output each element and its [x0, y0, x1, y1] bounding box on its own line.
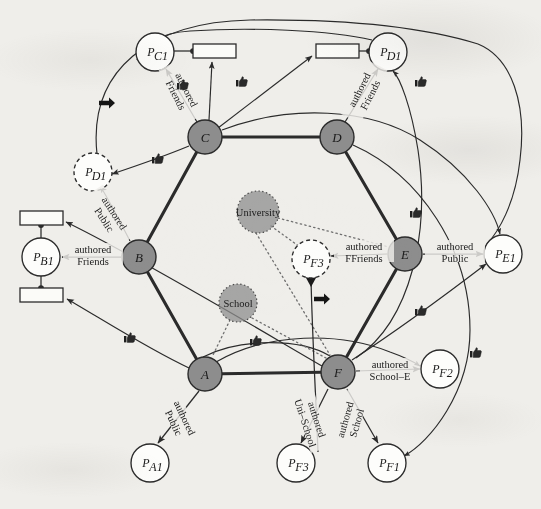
- edge-label-d-pd1: authoredFriends: [341, 60, 389, 124]
- curve-c-to-pd1b: [112, 146, 189, 174]
- attribute-node-label: University: [236, 207, 281, 218]
- edge-label-line2: School–E: [370, 371, 411, 382]
- edge-B-C: [139, 137, 205, 257]
- attr-University-PF3: [271, 226, 300, 247]
- user-node-label: E: [400, 247, 409, 262]
- resource-node-subscript: F1: [385, 460, 399, 474]
- edge-label-line2: FFriends: [345, 253, 382, 264]
- glyph-layer: [99, 77, 481, 358]
- policy-box: [316, 44, 359, 58]
- thumbs-up-icon: [415, 77, 426, 87]
- edge-A-B: [139, 257, 205, 374]
- edge-label-a-pa1: authoredPublic: [156, 388, 203, 452]
- resource-node-subscript: F3: [294, 460, 308, 474]
- resource-node-subscript: D1: [91, 169, 107, 183]
- attribute-node-label: School: [223, 298, 252, 309]
- resource-node-subscript: C1: [154, 49, 168, 63]
- user-node-label: C: [201, 130, 210, 145]
- policy-box: [20, 211, 63, 225]
- edge-label-line1: authored: [346, 241, 383, 252]
- edge-label-b-pd1b: authoredPublic: [83, 185, 135, 248]
- edge-F-A: [205, 372, 338, 374]
- edge-label-line2: Friends: [77, 256, 109, 267]
- diagram-svg: UniversitySchool PA1PB1PC1PD1PD1PE1PF1PF…: [0, 0, 541, 509]
- curve-a-f-low: [203, 343, 330, 357]
- resource-node-subscript: B1: [40, 254, 53, 268]
- figure-canvas: UniversitySchool PA1PB1PC1PD1PD1PE1PF1PF…: [0, 0, 541, 509]
- user-node-label: A: [200, 367, 209, 382]
- thumbs-up-icon: [250, 336, 261, 346]
- thumbs-up-icon: [470, 348, 481, 358]
- line-c-to-boxpc1: [209, 62, 212, 120]
- policy-box: [193, 44, 236, 58]
- edge-label-c-pc1: authoredFriends: [157, 60, 205, 124]
- edge-label-line2: Public: [442, 253, 469, 264]
- edge-label-f-pf2: authoredSchool–E: [360, 358, 420, 382]
- edge-label-line1: authored: [75, 244, 112, 255]
- resource-node-subscript: D1: [386, 49, 402, 63]
- outer-connector-curves: [66, 20, 522, 456]
- thumbs-up-icon: [415, 306, 426, 316]
- user-node-label: B: [135, 250, 143, 265]
- resource-node-subscript: E1: [501, 251, 515, 265]
- edge-label-f-pf1: authoredSchool: [331, 389, 370, 453]
- resource-node-subscript: A1: [148, 460, 162, 474]
- resource-node-subscript: F2: [438, 366, 452, 380]
- edge-label-line1: authored: [372, 359, 409, 370]
- edge-label-b-pb1: authoredFriends: [63, 243, 123, 267]
- user-node-label: D: [331, 130, 342, 145]
- curve-right-outer: [478, 44, 522, 244]
- edge-label-e-pf3: authoredFFriends: [334, 240, 394, 264]
- edge-label-e-pe1: authoredPublic: [425, 240, 485, 264]
- policy-box: [20, 288, 63, 302]
- right-arrow-icon: [314, 293, 330, 304]
- attribute-nodes: UniversitySchool: [219, 191, 281, 322]
- resource-node-subscript: F3: [309, 256, 323, 270]
- thumbs-up-icon: [236, 77, 247, 87]
- edge-label-line1: authored: [437, 241, 474, 252]
- thumbs-up-icon: [410, 208, 421, 218]
- curve-a-to-boxbottom: [67, 299, 189, 368]
- right-arrow-icon: [99, 97, 115, 108]
- user-node-label: F: [333, 365, 343, 380]
- thumbs-up-icon: [152, 154, 163, 164]
